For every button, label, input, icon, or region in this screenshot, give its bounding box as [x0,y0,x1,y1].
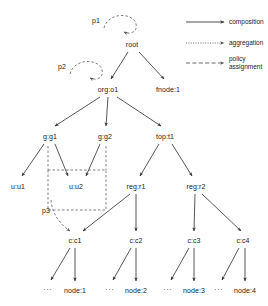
node-u-u1[interactable]: u:u1 [11,183,25,190]
legend-label-composition: composition [229,18,264,26]
policy-label-p2[interactable]: p2 [58,63,66,70]
edge-cc3-to-ellipsis [171,248,189,280]
legend-label-policy-line2: assignment [229,63,262,71]
ellipsis-4: ... [214,284,224,292]
node-c-c2[interactable]: c:c2 [129,237,142,244]
edge-regr2-to-cc3 [194,194,195,231]
diagram-canvas: root org:o1 fnode:1 g:g1 g:g2 top:t1 u:u… [0,0,268,306]
edge-topt1-to-regr1 [140,144,159,176]
edge-root-to-fnode [139,52,164,79]
edge-cc1-to-ellipsis [51,248,70,280]
node-node-4[interactable]: node:4 [234,287,256,294]
node-u-u2[interactable]: u:u2 [69,183,83,190]
edge-regr2-to-cc4 [202,194,241,231]
policy-label-p1[interactable]: p1 [92,17,100,24]
user-group-box [48,170,106,210]
edge-gg1-to-uu1 [22,144,44,176]
ellipsis-3: ... [163,284,173,292]
edge-cc4-to-ellipsis [222,248,239,280]
node-node-1[interactable]: node:1 [64,287,86,294]
edge-org-to-topt1 [117,97,161,126]
node-reg-r2[interactable]: reg:r2 [187,183,206,190]
policy-edge-p1 [104,15,136,33]
node-c-c4[interactable]: c:c4 [236,237,249,244]
edge-org-to-gg2 [106,97,108,126]
node-g-g1[interactable]: g:g1 [43,133,57,140]
legend-label-aggregation: aggregation [229,39,263,47]
edge-regr1-to-cc1 [83,194,130,231]
legend-label-policy-line1: policy [229,55,262,63]
policy-edge-p2 [70,61,102,79]
edge-root-to-org [111,52,128,79]
node-reg-r1[interactable]: reg:r1 [127,183,146,190]
ellipsis-1: ... [43,284,53,292]
node-c-c3[interactable]: c:c3 [187,237,200,244]
edge-gg2-to-uu2 [86,144,100,176]
edge-topt1-to-regr2 [172,144,192,176]
node-root[interactable]: root [126,41,138,48]
edge-cc2-to-ellipsis [113,248,131,280]
node-top-t1[interactable]: top:t1 [156,133,174,140]
policy-label-p3[interactable]: p3 [42,207,50,214]
edge-org-to-gg1 [55,97,100,126]
policy-edge-p3 [51,200,70,231]
node-node-3[interactable]: node:3 [183,287,205,294]
node-fnode-1[interactable]: fnode:1 [156,86,180,93]
node-c-c1[interactable]: c:c1 [68,237,81,244]
node-node-2[interactable]: node:2 [125,287,147,294]
edge-gg1-to-uu2 [55,144,68,176]
node-g-g2[interactable]: g:g2 [98,133,112,140]
ellipsis-2: ... [105,284,115,292]
node-org-o1[interactable]: org:o1 [98,86,118,93]
legend-label-policy-assignment: policy assignment [229,55,262,71]
